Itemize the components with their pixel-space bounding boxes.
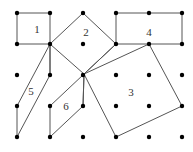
grid-dot — [15, 42, 19, 46]
shape-5-label: 5 — [28, 85, 34, 97]
grid-dot — [147, 135, 151, 139]
grid-dot — [180, 73, 184, 77]
grid-dot — [147, 11, 151, 15]
grid-dot — [81, 135, 85, 139]
grid-dot — [48, 42, 52, 46]
grid-dot — [147, 73, 151, 77]
grid-dot — [48, 104, 52, 108]
shape-outlines — [17, 13, 182, 137]
grid-dot — [114, 73, 118, 77]
grid-dot — [81, 73, 85, 77]
connector-line — [83, 74, 84, 106]
grid-dot — [147, 104, 151, 108]
grid-dot — [180, 135, 184, 139]
grid-dot — [114, 11, 118, 15]
grid-dot — [147, 42, 151, 46]
grid-dot — [81, 42, 85, 46]
shape-1-label: 1 — [34, 23, 40, 35]
grid-dot — [81, 11, 85, 15]
grid-dot — [180, 104, 184, 108]
grid-dot — [81, 104, 85, 108]
grid-dot — [15, 73, 19, 77]
shape-6-label: 6 — [63, 100, 69, 112]
grid-dot — [15, 135, 19, 139]
shape-3-label: 3 — [128, 86, 134, 98]
grid-dot — [180, 42, 184, 46]
grid-dot — [48, 135, 52, 139]
grid-dot — [48, 73, 52, 77]
shape-2-label: 2 — [83, 26, 89, 38]
shape-4-label: 4 — [146, 26, 152, 38]
grid-dot — [48, 11, 52, 15]
grid-dot — [114, 135, 118, 139]
grid-dot — [114, 42, 118, 46]
grid-dot — [180, 11, 184, 15]
grid-dot — [15, 104, 19, 108]
connector-line — [84, 44, 116, 74]
grid-dot — [15, 11, 19, 15]
grid-dots — [15, 11, 184, 139]
dot-grid-diagram: 124356 — [0, 0, 193, 152]
grid-dot — [114, 104, 118, 108]
